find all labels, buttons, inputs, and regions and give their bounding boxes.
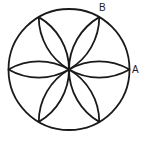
petals-group (9, 17, 130, 122)
rosette-diagram: A B (0, 0, 146, 141)
point-label-a: A (132, 64, 139, 75)
point-label-b: B (99, 2, 106, 13)
